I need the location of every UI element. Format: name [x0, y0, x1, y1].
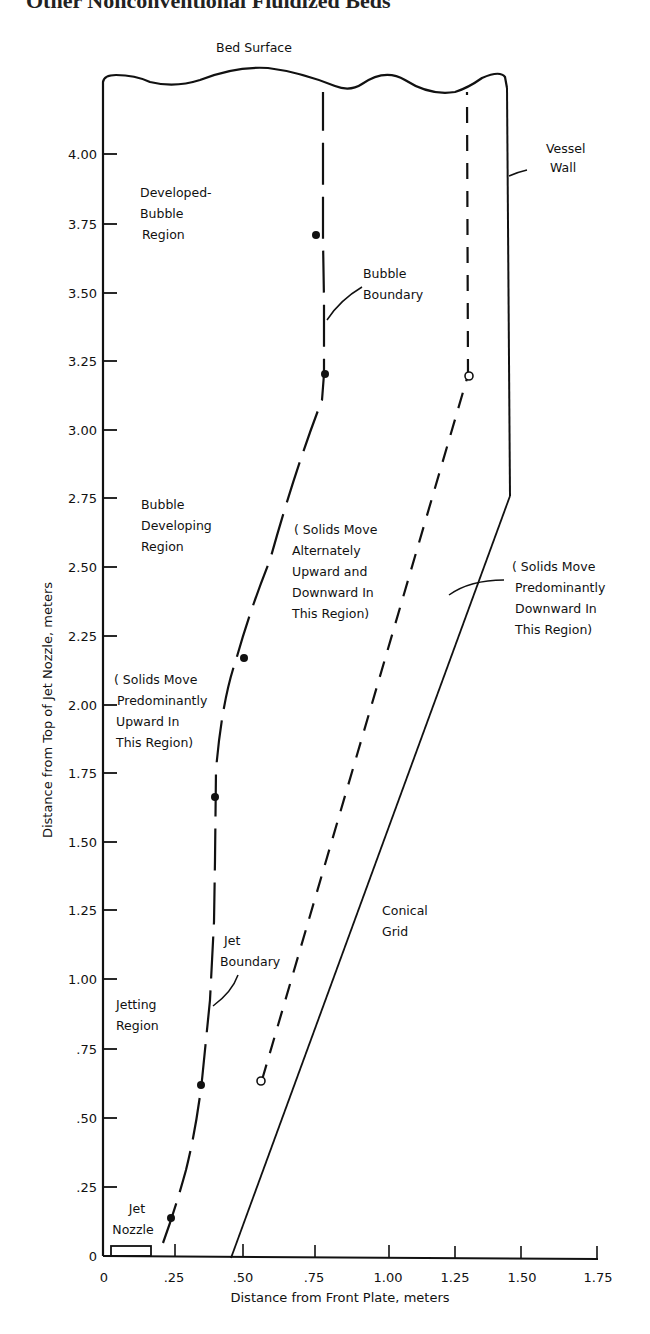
bed-surface-line	[103, 68, 507, 1256]
svg-text:.50: .50	[233, 1270, 254, 1285]
svg-text:0: 0	[89, 1249, 97, 1264]
svg-text:.25: .25	[76, 1180, 97, 1195]
svg-text:( Solids Move: ( Solids Move	[114, 672, 198, 687]
downward-boundary-upper-line	[467, 92, 468, 375]
fluidized-bed-diagram: 0 .25 .50 .75 1.00 1.25 1.50 1.75 2.00 2…	[0, 0, 650, 1334]
svg-text:Downward In: Downward In	[292, 585, 374, 600]
svg-text:Alternately: Alternately	[292, 543, 361, 558]
conical-grid-label: Conical Grid	[382, 903, 428, 939]
svg-text:Bubble: Bubble	[141, 497, 185, 512]
svg-text:1.50: 1.50	[68, 835, 97, 850]
svg-text:Region: Region	[116, 1018, 159, 1033]
jet-boundary-leader	[213, 975, 238, 1006]
x-tick-labels: 0 .25 .50 .75 1.00 1.25 1.50 1.75	[100, 1270, 613, 1285]
x-axis-title: Distance from Front Plate, meters	[230, 1290, 449, 1305]
jet-nozzle-label: Jet Nozzle	[112, 1201, 154, 1237]
svg-text:Vessel: Vessel	[546, 141, 585, 156]
svg-text:Conical: Conical	[382, 903, 428, 918]
x-axis	[103, 1256, 598, 1259]
svg-text:2.75: 2.75	[68, 491, 97, 506]
filled-markers	[167, 231, 329, 1222]
svg-text:This Region): This Region)	[514, 622, 592, 637]
upward-region-label: ( Solids Move Predominantly Upward In Th…	[114, 672, 208, 750]
svg-text:3.50: 3.50	[68, 286, 97, 301]
svg-text:This Region): This Region)	[291, 606, 369, 621]
svg-text:Grid: Grid	[382, 924, 408, 939]
svg-text:.50: .50	[76, 1111, 97, 1126]
vessel-wall-leader	[509, 170, 527, 176]
svg-text:Developed-: Developed-	[140, 185, 212, 200]
svg-text:Predominantly: Predominantly	[117, 693, 208, 708]
vessel-wall-label: Vessel Wall	[546, 141, 585, 175]
svg-text:( Solids Move: ( Solids Move	[512, 559, 596, 574]
bubble-developing-region-label: Bubble Developing Region	[141, 497, 212, 554]
svg-text:Jet: Jet	[223, 933, 240, 948]
svg-text:4.00: 4.00	[68, 147, 97, 162]
svg-text:Downward In: Downward In	[515, 601, 597, 616]
svg-text:Boundary: Boundary	[363, 287, 424, 302]
y-axis-title: Distance from Top of Jet Nozzle, meters	[40, 582, 55, 838]
svg-text:Boundary: Boundary	[220, 954, 281, 969]
svg-text:Upward In: Upward In	[116, 714, 179, 729]
svg-text:1.25: 1.25	[441, 1270, 470, 1285]
y-tick-labels: 0 .25 .50 .75 1.00 1.25 1.50 1.75 2.00 2…	[68, 147, 97, 1264]
svg-text:Wall: Wall	[550, 160, 576, 175]
vessel-wall-line	[507, 88, 510, 496]
jet-nozzle-shape	[111, 1246, 151, 1256]
downward-region-label: ( Solids Move Predominantly Downward In …	[512, 559, 606, 637]
svg-text:Predominantly: Predominantly	[515, 580, 606, 595]
svg-text:Region: Region	[142, 227, 185, 242]
svg-text:.75: .75	[76, 1042, 97, 1057]
svg-text:Upward and: Upward and	[292, 564, 367, 579]
svg-text:Region: Region	[141, 539, 184, 554]
y-axis	[103, 154, 117, 1256]
svg-text:Bubble: Bubble	[363, 266, 407, 281]
svg-text:3.75: 3.75	[68, 217, 97, 232]
developed-bubble-region-label: Developed- Bubble Region	[140, 185, 212, 242]
bed-surface-label: Bed Surface	[216, 40, 292, 55]
conical-grid-line	[231, 496, 510, 1258]
svg-text:1.75: 1.75	[68, 766, 97, 781]
svg-text:2.00: 2.00	[68, 698, 97, 713]
svg-text:This Region): This Region)	[115, 735, 193, 750]
svg-text:Developing: Developing	[141, 518, 212, 533]
svg-text:2.50: 2.50	[68, 560, 97, 575]
svg-text:.75: .75	[304, 1270, 325, 1285]
svg-text:3.00: 3.00	[68, 423, 97, 438]
svg-text:1.00: 1.00	[374, 1270, 403, 1285]
svg-text:Jetting: Jetting	[115, 997, 157, 1012]
svg-text:Nozzle: Nozzle	[112, 1222, 154, 1237]
svg-text:Jet: Jet	[128, 1201, 145, 1216]
svg-text:Bubble: Bubble	[140, 206, 184, 221]
jetting-region-label: Jetting Region	[115, 997, 159, 1033]
svg-text:2.25: 2.25	[68, 629, 97, 644]
svg-text:.25: .25	[164, 1270, 185, 1285]
svg-text:( Solids Move: ( Solids Move	[294, 522, 378, 537]
bubble-boundary-label: Bubble Boundary	[363, 266, 424, 302]
alternate-region-label: ( Solids Move Alternately Upward and Dow…	[291, 522, 378, 621]
svg-text:3.25: 3.25	[68, 354, 97, 369]
jet-boundary-label: Jet Boundary	[220, 933, 281, 969]
svg-text:1.50: 1.50	[508, 1270, 537, 1285]
bubble-boundary-leader	[327, 287, 362, 320]
svg-text:1.75: 1.75	[584, 1270, 613, 1285]
svg-text:1.25: 1.25	[68, 903, 97, 918]
svg-text:0: 0	[100, 1270, 108, 1285]
svg-text:1.00: 1.00	[68, 972, 97, 987]
